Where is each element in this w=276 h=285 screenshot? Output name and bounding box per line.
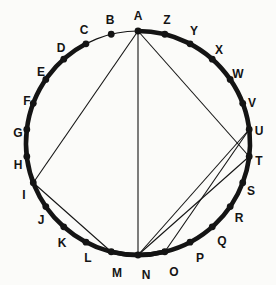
vertex-label-q: Q — [217, 235, 226, 247]
vertex-dot-j — [42, 203, 49, 210]
vertex-dot-k — [60, 223, 67, 230]
vertex-dot-b — [108, 31, 115, 38]
vertex-label-m: M — [112, 267, 122, 279]
vertex-dot-g — [23, 126, 30, 133]
vertex-label-p: P — [196, 252, 204, 264]
vertex-label-u: U — [255, 125, 264, 137]
circle-diagram-svg — [0, 0, 276, 285]
vertex-dot-v — [239, 100, 246, 107]
vertex-dot-r — [227, 203, 234, 210]
chord-a-t — [138, 31, 249, 156]
vertex-dot-l — [83, 239, 90, 246]
vertex-dot-d — [60, 56, 67, 63]
vertex-dot-h — [23, 153, 30, 160]
vertex-label-c: C — [80, 24, 89, 36]
vertex-dot-q — [209, 223, 216, 230]
vertex-dot-i — [30, 179, 37, 186]
vertex-label-j: J — [38, 214, 45, 226]
vertex-dot-n — [135, 252, 142, 259]
vertex-label-i: I — [22, 189, 25, 201]
vertex-dot-p — [187, 239, 194, 246]
vertex-label-g: G — [13, 127, 22, 139]
vertex-dot-f — [30, 100, 37, 107]
vertex-label-e: E — [37, 66, 45, 78]
vertex-label-l: L — [84, 252, 91, 264]
vertex-dot-y — [187, 40, 194, 47]
vertex-label-s: S — [247, 185, 255, 197]
diagram-canvas: ABCDEFGHIJKLMNOPQRSTUVWXYZ — [0, 0, 276, 285]
vertex-label-x: X — [215, 44, 223, 56]
vertex-dot-o — [161, 248, 168, 255]
vertex-dot-t — [246, 153, 253, 160]
vertex-label-k: K — [58, 237, 67, 249]
vertex-label-b: B — [106, 14, 115, 26]
vertex-label-r: R — [235, 212, 244, 224]
vertex-label-w: W — [232, 68, 243, 80]
vertex-label-v: V — [248, 97, 256, 109]
vertex-label-f: F — [23, 95, 30, 107]
vertex-label-o: O — [169, 266, 178, 278]
vertex-label-n: N — [142, 269, 151, 281]
vertex-label-a: A — [134, 10, 143, 22]
vertex-dot-z — [161, 31, 168, 38]
chord-a-i — [33, 31, 138, 183]
chord-i-m — [33, 183, 111, 252]
vertex-dot-a — [135, 28, 142, 35]
vertex-dot-c — [83, 40, 90, 47]
vertex-dot-m — [108, 248, 115, 255]
chord-n-u — [138, 130, 249, 255]
vertex-dot-s — [239, 179, 246, 186]
vertex-label-d: D — [57, 42, 66, 54]
vertex-dot-u — [246, 126, 253, 133]
vertex-label-t: T — [255, 155, 262, 167]
vertex-label-z: Z — [163, 14, 170, 26]
vertex-label-h: H — [14, 159, 23, 171]
vertex-label-y: Y — [190, 25, 198, 37]
